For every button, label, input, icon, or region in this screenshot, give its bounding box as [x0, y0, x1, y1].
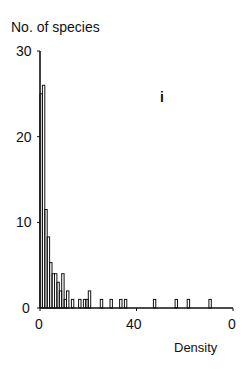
- histogram-bar: [120, 299, 122, 308]
- histogram-bar: [79, 299, 81, 308]
- histogram-bar: [67, 291, 69, 308]
- histogram-bar: [175, 299, 177, 308]
- histogram-bar: [110, 299, 112, 308]
- histogram-plot: [0, 0, 251, 375]
- histogram-bar: [187, 299, 189, 308]
- histogram-bar: [71, 299, 73, 308]
- histogram-bar: [100, 299, 102, 308]
- histogram-bar: [124, 299, 126, 308]
- histogram-bar: [209, 299, 211, 308]
- histogram-bar: [153, 299, 155, 308]
- histogram-bar: [88, 291, 90, 308]
